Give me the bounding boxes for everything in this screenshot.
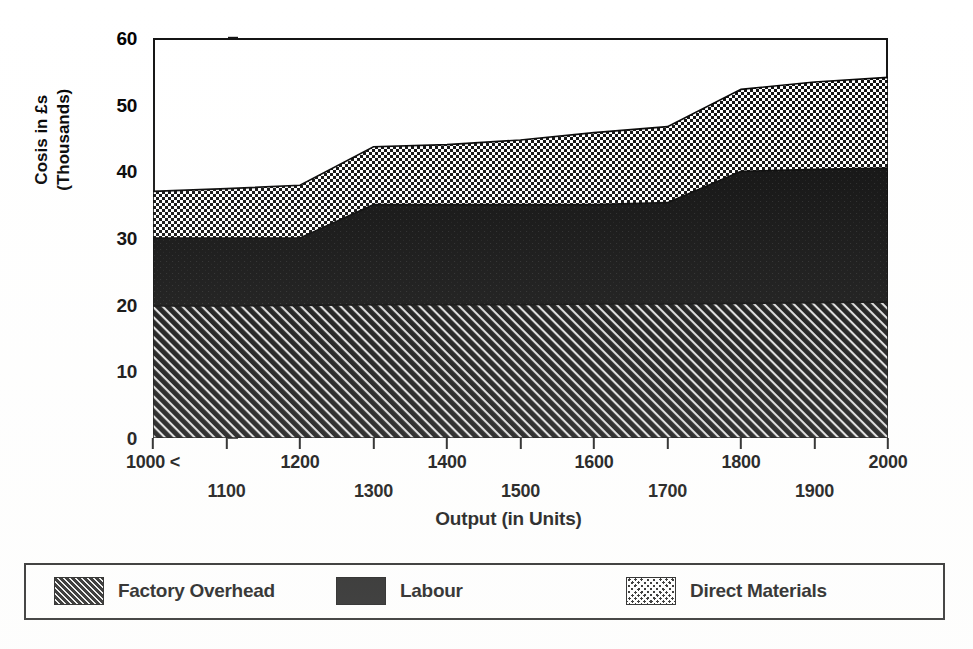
x-tick-label: 1600 bbox=[575, 452, 614, 473]
area-series-factory-overhead bbox=[153, 302, 888, 438]
x-tick-mark bbox=[446, 438, 448, 449]
y-tick-label: 10 bbox=[85, 362, 137, 381]
legend-label-direct-materials: Direct Materials bbox=[690, 580, 827, 602]
x-tick-mark bbox=[740, 438, 742, 449]
solid-black-swatch-icon bbox=[336, 577, 386, 605]
x-tick-label: 1800 bbox=[722, 452, 761, 473]
y-tick-label: 50 bbox=[85, 95, 137, 114]
legend-item-factory-overhead: Factory Overhead bbox=[54, 577, 275, 605]
x-tick-label: 1100 bbox=[208, 481, 246, 502]
x-tick-mark bbox=[225, 438, 227, 449]
y-axis-title-line-2: (Thousands) bbox=[53, 25, 75, 255]
x-tick-label: 1300 bbox=[354, 481, 393, 502]
x-tick-mark bbox=[593, 438, 595, 449]
x-tick-mark bbox=[372, 438, 374, 449]
x-tick-mark bbox=[887, 438, 889, 449]
y-axis-title: Cosis in £s (Thousands) bbox=[31, 25, 75, 255]
stacked-area-plot bbox=[153, 38, 888, 438]
chart-legend: Factory Overhead Labour Direct Materials bbox=[24, 563, 945, 620]
legend-item-direct-materials: Direct Materials bbox=[626, 577, 827, 605]
x-tick-label: 1000 < bbox=[126, 452, 180, 473]
diagonal-hatch-swatch-icon bbox=[54, 577, 104, 605]
y-tick-label: 0 bbox=[85, 429, 137, 448]
x-tick-mark bbox=[813, 438, 815, 449]
x-tick-mark bbox=[519, 438, 521, 449]
x-tick-label: 1900 bbox=[795, 481, 834, 502]
x-tick-mark bbox=[666, 438, 668, 449]
y-axis-title-line-1: Cosis in £s bbox=[31, 25, 53, 255]
legend-label-factory-overhead: Factory Overhead bbox=[118, 580, 275, 602]
x-tick-label: 1200 bbox=[281, 452, 320, 473]
y-tick-label: 30 bbox=[85, 229, 137, 248]
x-tick-label: 1700 bbox=[648, 481, 687, 502]
x-axis-title-text: Output (in Units) bbox=[435, 508, 581, 529]
x-tick-label: 1500 bbox=[501, 481, 540, 502]
x-tick-mark bbox=[152, 438, 154, 449]
chart-figure: Cosis in £s (Thousands) 0102030405060 bbox=[0, 0, 973, 545]
x-tick-mark bbox=[299, 438, 301, 449]
x-tick-label: 1400 bbox=[428, 452, 467, 473]
x-tick-label: 2000 bbox=[869, 452, 908, 473]
checkerboard-swatch-icon bbox=[626, 577, 676, 605]
y-tick-label: 60 bbox=[85, 29, 137, 48]
y-tick-label: 40 bbox=[85, 162, 137, 181]
y-tick-label: 20 bbox=[85, 295, 137, 314]
x-axis-title: Output (in Units) bbox=[0, 508, 973, 530]
legend-item-labour: Labour bbox=[336, 577, 463, 605]
legend-label-labour: Labour bbox=[400, 580, 463, 602]
